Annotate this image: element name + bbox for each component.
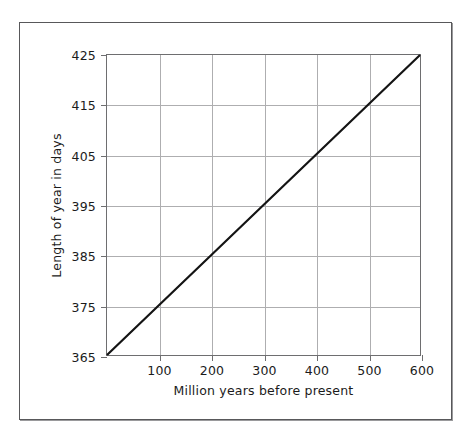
tick-mark-x <box>422 355 423 361</box>
tick-mark-x <box>317 355 318 361</box>
y-tick-label: 425 <box>72 48 96 63</box>
y-tick-label: 375 <box>72 299 96 314</box>
tick-mark-y <box>101 357 107 358</box>
data-series-layer <box>107 55 420 355</box>
tick-mark-x <box>212 355 213 361</box>
figure-frame: Length of year in days 36537538539540541… <box>19 22 452 420</box>
y-tick-label: 365 <box>72 350 96 365</box>
x-axis-title-text: Million years before present <box>174 383 354 398</box>
tick-mark-x <box>160 355 161 361</box>
y-tick-label: 385 <box>72 249 96 264</box>
x-tick-label: 200 <box>200 363 224 378</box>
x-tick-label: 600 <box>410 363 434 378</box>
y-axis-title: Length of year in days <box>47 54 65 356</box>
x-tick-label: 500 <box>357 363 381 378</box>
y-tick-label: 405 <box>72 148 96 163</box>
y-tick-label: 415 <box>72 98 96 113</box>
x-tick-label: 400 <box>305 363 329 378</box>
y-axis-title-text: Length of year in days <box>49 133 64 277</box>
data-line-length-of-year <box>107 55 420 355</box>
x-tick-label: 100 <box>147 363 171 378</box>
x-axis-title: Million years before present <box>106 383 421 398</box>
x-tick-label: 300 <box>252 363 276 378</box>
tick-mark-x <box>370 355 371 361</box>
plot-area: 365375385395405415425 100200300400500600 <box>106 54 421 356</box>
tick-mark-x <box>265 355 266 361</box>
y-tick-label: 395 <box>72 199 96 214</box>
line-chart: Length of year in days 36537538539540541… <box>20 23 453 421</box>
